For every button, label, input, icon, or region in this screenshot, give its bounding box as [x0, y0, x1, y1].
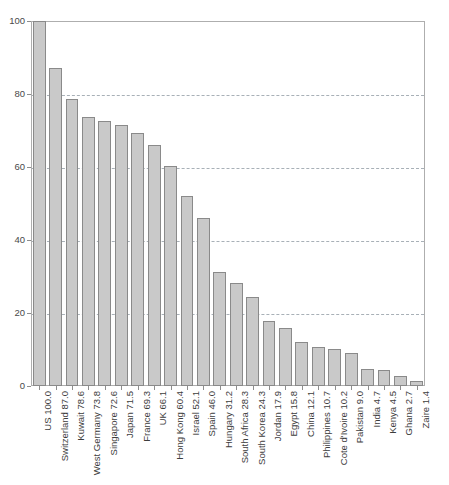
- x-axis-tickmark: [335, 386, 336, 390]
- x-axis-tickmark: [72, 386, 73, 390]
- x-axis-tick-label: France 69.3: [142, 391, 152, 442]
- y-axis-tick-label: 80: [14, 89, 25, 99]
- x-axis-tick-label: South Africa 28.3: [240, 391, 250, 463]
- x-axis-tickmark: [384, 386, 385, 390]
- x-axis-tick-label: Hungary 31.2: [224, 391, 234, 448]
- x-axis-tickmark: [121, 386, 122, 390]
- x-axis-tickmark: [171, 386, 172, 390]
- x-axis-tickmark: [417, 386, 418, 390]
- x-axis-tickmark: [302, 386, 303, 390]
- bar: [230, 283, 243, 386]
- x-axis-tickmark: [187, 386, 188, 390]
- x-axis-tick-label: Israel 52.1: [191, 391, 201, 435]
- bar: [213, 272, 226, 386]
- x-axis-tickmark: [220, 386, 221, 390]
- x-axis-tick-label: Hong Kong 60.4: [175, 391, 185, 460]
- y-axis-tick-label: 0: [20, 381, 25, 391]
- x-axis-tick-label: Jordan 17.9: [273, 391, 283, 441]
- bar: [246, 297, 259, 386]
- x-axis-tick-label: Zaire 1.4: [421, 391, 431, 429]
- x-axis-tickmark: [269, 386, 270, 390]
- x-axis-labels: US 100.0Switzerland 87.0Kuwait 78.6West …: [31, 391, 425, 485]
- x-axis-tick-label: Kuwait 78.6: [76, 391, 86, 441]
- x-axis-tick-label: Philippines 10.7: [322, 391, 332, 458]
- x-axis-tick-label: UK 66.1: [158, 391, 168, 425]
- bar: [263, 321, 276, 386]
- bar: [328, 349, 341, 386]
- bar: [361, 369, 374, 386]
- x-axis-tick-label: US 100.0: [43, 391, 53, 431]
- x-axis-tickmark: [368, 386, 369, 390]
- bar: [82, 117, 95, 386]
- x-axis-tickmark: [105, 386, 106, 390]
- x-axis-tickmark: [285, 386, 286, 390]
- x-axis-tick-label: China 12.1: [306, 391, 316, 437]
- bar: [394, 376, 407, 386]
- bar: [66, 99, 79, 386]
- x-axis-tick-label: Spain 46.0: [207, 391, 217, 436]
- y-axis-tick-label: 100: [9, 16, 25, 26]
- x-axis-tick-label: India 4.7: [372, 391, 382, 427]
- x-axis-tickmark: [154, 386, 155, 390]
- bar: [197, 218, 210, 386]
- bar-chart-figure: 020406080100 US 100.0Switzerland 87.0Kuw…: [0, 0, 449, 485]
- bar: [279, 328, 292, 386]
- bar: [98, 121, 111, 386]
- x-axis-tickmark: [236, 386, 237, 390]
- bar: [181, 196, 194, 386]
- x-axis-tickmark: [39, 386, 40, 390]
- x-axis-tick-label: Kenya 4.5: [388, 391, 398, 434]
- bar: [115, 125, 128, 386]
- y-axis-tick-label: 40: [14, 235, 25, 245]
- bar: [33, 21, 46, 386]
- x-axis-tick-label: South Korea 24.3: [257, 391, 267, 465]
- bar: [345, 353, 358, 386]
- x-axis-tickmark: [88, 386, 89, 390]
- x-axis-tick-label: Egypt 15.8: [289, 391, 299, 436]
- bars-layer: [31, 21, 425, 386]
- y-axis: 020406080100: [0, 14, 31, 393]
- bar: [312, 347, 325, 386]
- x-axis-tick-label: Switzerland 87.0: [60, 391, 70, 461]
- x-axis-tickmark: [138, 386, 139, 390]
- y-axis-tick-label: 60: [14, 162, 25, 172]
- bar: [148, 145, 161, 386]
- x-axis-tickmark: [400, 386, 401, 390]
- bar: [49, 68, 62, 386]
- x-axis-tick-label: Singapore 72.6: [109, 391, 119, 455]
- y-axis-tick-label: 20: [14, 308, 25, 318]
- x-axis-tick-label: Cote d'Ivoire 10.2: [339, 391, 349, 465]
- x-axis-tickmark: [318, 386, 319, 390]
- bar: [295, 342, 308, 386]
- x-axis-tickmark: [253, 386, 254, 390]
- bar: [378, 370, 391, 386]
- bar: [131, 133, 144, 386]
- bar: [164, 166, 177, 386]
- x-axis-tick-label: West Germany 73.8: [92, 391, 102, 475]
- x-axis-tick-label: Ghana 2.7: [404, 391, 414, 435]
- x-axis-tick-label: Japan 71.5: [125, 391, 135, 438]
- x-axis-tickmark: [203, 386, 204, 390]
- x-axis-tick-label: Pakistan 9.0: [355, 391, 365, 443]
- x-axis-tickmark: [351, 386, 352, 390]
- x-axis-tickmark: [56, 386, 57, 390]
